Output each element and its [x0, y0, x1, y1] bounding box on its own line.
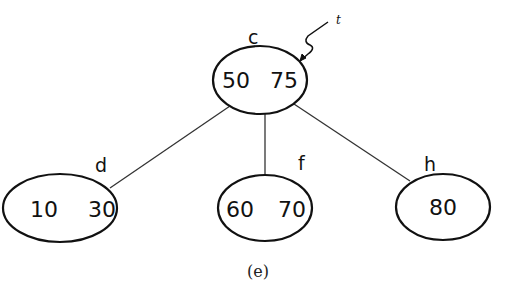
- node-key-f-1: 60: [226, 197, 254, 222]
- tree-diagram: c 50 75 t d 10 30 f 60 70 h 80 (e): [0, 0, 517, 295]
- pointer-label: t: [336, 13, 341, 27]
- edge-c-h: [294, 104, 410, 181]
- pointer-t: t: [300, 13, 341, 61]
- node-c: c 50 75: [213, 26, 307, 114]
- arrowhead-icon: [300, 54, 306, 61]
- node-label-h: h: [424, 153, 436, 175]
- squiggle-arrow-icon: [300, 22, 328, 61]
- node-key-c-2: 75: [270, 68, 298, 93]
- node-key-f-2: 70: [278, 197, 306, 222]
- node-key-c-1: 50: [222, 68, 250, 93]
- node-key-h-1: 80: [429, 195, 457, 220]
- node-d: d 10 30: [3, 154, 117, 242]
- node-h: h 80: [396, 153, 490, 240]
- node-label-d: d: [95, 154, 107, 176]
- node-label-f: f: [298, 152, 306, 174]
- node-key-d-2: 30: [88, 197, 116, 222]
- edge-c-d: [110, 106, 230, 188]
- node-key-d-1: 10: [30, 197, 58, 222]
- figure-caption: (e): [247, 262, 269, 281]
- node-label-c: c: [248, 26, 258, 48]
